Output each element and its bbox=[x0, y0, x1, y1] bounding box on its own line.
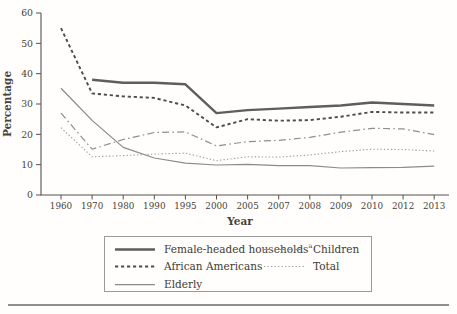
legend-label-elderly: Elderly bbox=[164, 279, 202, 290]
x-tick-label: 2005 bbox=[236, 201, 258, 211]
y-tick-label: 40 bbox=[21, 68, 33, 79]
legend-label-children: Children bbox=[313, 244, 359, 255]
x-tick-label: 2007 bbox=[268, 201, 290, 211]
x-tick-label: 1970 bbox=[81, 201, 104, 211]
y-axis-title: Percentage bbox=[1, 71, 13, 138]
x-tick-label: 2010 bbox=[361, 201, 384, 211]
x-tick-label: 1995 bbox=[174, 201, 196, 211]
y-tick-label: 20 bbox=[21, 129, 33, 140]
series-line bbox=[61, 28, 434, 127]
legend-column-right: Children Total bbox=[263, 240, 359, 275]
poverty-rates-figure: 0102030405060196019701980199019952000200… bbox=[0, 0, 457, 314]
y-tick-label: 30 bbox=[21, 98, 33, 109]
x-axis-title: Year bbox=[226, 215, 253, 227]
x-tick-label: 2008 bbox=[299, 201, 321, 211]
legend-line-sample-dotted-icon bbox=[263, 260, 305, 272]
legend-item-children: Children bbox=[263, 240, 359, 258]
legend-line-sample-thick-solid-icon bbox=[114, 243, 156, 255]
x-tick-label: 1960 bbox=[50, 201, 73, 211]
y-tick-label: 10 bbox=[21, 159, 33, 170]
legend-label-total: Total bbox=[313, 261, 339, 272]
legend-item-elderly: Elderly bbox=[114, 275, 312, 293]
legend-label-african-americans: African Americans bbox=[164, 261, 262, 272]
y-tick-label: 0 bbox=[27, 189, 33, 200]
y-tick-label: 50 bbox=[21, 38, 33, 49]
x-tick-label: 1990 bbox=[143, 201, 166, 211]
x-tick-label: 2012 bbox=[392, 201, 414, 211]
legend-line-sample-thin-solid-icon bbox=[114, 278, 156, 290]
legend-line-sample-dashed-icon bbox=[114, 260, 156, 272]
legend-line-sample-dash-dot-icon bbox=[263, 243, 305, 255]
series-lines bbox=[61, 28, 434, 168]
line-chart: 0102030405060196019701980199019952000200… bbox=[0, 0, 457, 234]
x-tick-label: 2000 bbox=[205, 201, 228, 211]
legend-item-total: Total bbox=[263, 258, 359, 276]
bottom-rule bbox=[8, 304, 449, 306]
x-tick-label: 2013 bbox=[423, 201, 445, 211]
series-line bbox=[61, 128, 434, 161]
y-tick-label: 60 bbox=[21, 7, 33, 18]
x-tick-label: 1980 bbox=[112, 201, 135, 211]
series-line bbox=[92, 80, 434, 113]
axes: 0102030405060196019701980199019952000200… bbox=[1, 7, 449, 227]
x-tick-label: 2009 bbox=[330, 201, 352, 211]
legend: Female-headed householdsa African Americ… bbox=[104, 236, 372, 292]
